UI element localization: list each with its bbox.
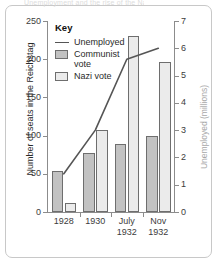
line-swatch-icon — [55, 42, 69, 44]
legend-item-communist-vote: Communist vote — [55, 49, 135, 70]
legend-label: Unemployed — [74, 37, 135, 48]
chart-legend: Key Unemployed Communist vote Nazi vote — [55, 23, 135, 83]
legend-item-unemployed: Unemployed — [55, 37, 135, 48]
communist-swatch-icon — [55, 50, 68, 59]
nazi-swatch-icon — [55, 72, 68, 81]
chart-figure: Unemployment and the rise of the Nazis N… — [0, 0, 219, 265]
legend-label: Communist vote — [74, 49, 135, 70]
legend-label: Nazi vote — [74, 71, 135, 82]
legend-title: Key — [55, 23, 135, 34]
legend-item-nazi-vote: Nazi vote — [55, 71, 135, 82]
